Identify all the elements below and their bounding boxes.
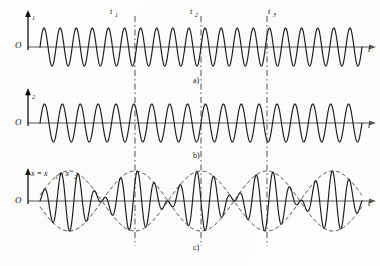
time-marker-t3: t xyxy=(268,7,271,16)
time-marker-t2-subscript: 2 xyxy=(195,12,198,18)
time-marker-t2: t xyxy=(190,7,193,16)
time-marker-t1: t xyxy=(110,7,113,16)
panel-c-y-axis-label-2: + x xyxy=(58,169,69,178)
panel-b-caption: b) xyxy=(193,151,200,160)
panel-a-caption: a) xyxy=(193,76,200,85)
time-marker-t3-subscript: 3 xyxy=(272,12,276,18)
panel-c-y-axis-subscript-2: 2 xyxy=(74,174,77,180)
panel-b-y-axis-subscript: 2 xyxy=(32,94,35,100)
panel-a-y-axis-subscript: 1 xyxy=(32,15,35,21)
figure-curves xyxy=(25,10,376,246)
panel-b-y-axis-label: x xyxy=(25,88,30,98)
panel-b-origin-label: O xyxy=(15,117,22,127)
panel-a-origin-label: O xyxy=(15,40,22,50)
time-marker-t1-subscript: 1 xyxy=(115,12,118,18)
panel-c-y-axis-arrow xyxy=(25,168,31,175)
panel-c-caption: c) xyxy=(193,243,200,252)
panel-c-origin-label: O xyxy=(15,195,22,205)
panel-a-y-axis-label: x xyxy=(25,9,30,19)
beats-figure: x 1 O t a) x 2 O t b) x = x 1 + x 2 O t … xyxy=(0,0,380,266)
panel-c-y-axis-label: x = x xyxy=(30,169,48,178)
